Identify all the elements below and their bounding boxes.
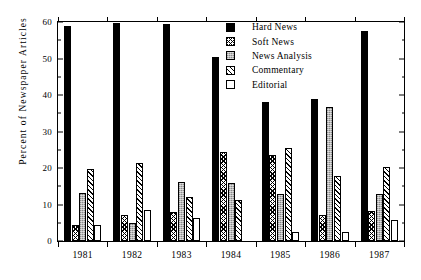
bar: [361, 31, 368, 241]
x-tick-mark: [206, 242, 207, 247]
legend-label: Editorial: [252, 80, 288, 90]
x-tick-mark: [404, 242, 405, 247]
bar: [72, 225, 79, 241]
bar: [228, 183, 235, 241]
x-tick-mark: [256, 242, 257, 247]
x-tick-mark: [58, 242, 59, 247]
bar: [326, 107, 333, 241]
x-tick-mark-top: [404, 17, 405, 22]
x-tick-mark: [107, 242, 108, 247]
bar: [64, 26, 71, 241]
x-tick-mark: [305, 242, 306, 247]
legend-label: Soft News: [252, 37, 294, 47]
chart-legend: Hard NewsSoft NewsNews AnalysisCommentar…: [226, 20, 312, 92]
bar: [94, 225, 101, 241]
y-tick-label: 0: [30, 236, 52, 246]
bar: [342, 232, 349, 241]
bar: [285, 148, 292, 241]
bar: [144, 210, 151, 241]
bar: [193, 218, 200, 241]
x-tick-label: 1983: [171, 250, 192, 260]
x-tick-mark: [157, 242, 158, 247]
legend-label: Commentary: [252, 65, 304, 75]
bar: [368, 211, 375, 241]
bar: [319, 215, 326, 241]
y-tick-label: 30: [30, 127, 52, 137]
bar: [212, 57, 219, 241]
legend-item: Soft News: [226, 34, 312, 48]
y-tick-label: 40: [30, 90, 52, 100]
legend-swatch-icon: [226, 37, 235, 46]
x-tick-label: 1986: [320, 250, 341, 260]
y-tick-label: 10: [30, 200, 52, 210]
bar: [186, 197, 193, 241]
bar: [376, 194, 383, 241]
bar: [311, 99, 318, 241]
bar: [220, 152, 227, 241]
bar: [277, 194, 284, 241]
bar: [113, 23, 120, 241]
y-tick-label: 20: [30, 163, 52, 173]
x-tick-label: 1982: [122, 250, 143, 260]
bar: [79, 193, 86, 241]
bar: [269, 155, 276, 241]
legend-swatch-icon: [226, 51, 235, 60]
bar: [383, 167, 390, 241]
x-tick-label: 1987: [369, 250, 390, 260]
bar: [292, 232, 299, 241]
x-tick-label: 1985: [270, 250, 291, 260]
x-tick-label: 1981: [72, 250, 93, 260]
legend-item: Commentary: [226, 63, 312, 77]
y-axis-title: Percent of Newspaper Articles: [18, 0, 28, 201]
legend-item: Hard News: [226, 20, 312, 34]
legend-swatch-icon: [226, 80, 235, 89]
bar: [136, 163, 143, 241]
legend-swatch-icon: [226, 66, 235, 75]
legend-item: News Analysis: [226, 49, 312, 63]
bar: [262, 102, 269, 241]
x-tick-label: 1984: [221, 250, 242, 260]
bar: [87, 169, 94, 241]
legend-label: Hard News: [252, 22, 297, 32]
legend-label: News Analysis: [252, 51, 312, 61]
bar-chart: Percent of Newspaper Articles 0102030405…: [0, 0, 421, 280]
bar: [163, 24, 170, 241]
bar: [170, 212, 177, 241]
bar: [121, 215, 128, 241]
bar: [235, 200, 242, 241]
bar: [129, 223, 136, 241]
bar: [391, 220, 398, 241]
bar: [178, 182, 185, 241]
y-tick-label: 60: [30, 17, 52, 27]
bar: [334, 176, 341, 241]
legend-swatch-icon: [226, 23, 235, 32]
legend-item: Editorial: [226, 78, 312, 92]
y-tick-label: 50: [30, 54, 52, 64]
x-tick-mark: [355, 242, 356, 247]
